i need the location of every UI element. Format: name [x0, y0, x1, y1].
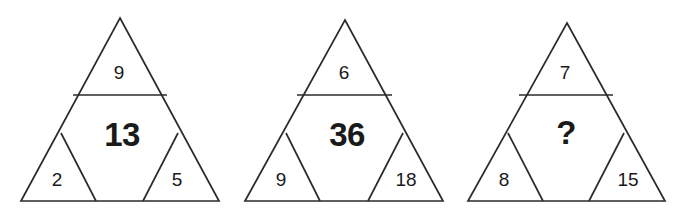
triangle-3-bottom-left-value: 8 [499, 169, 510, 190]
triangle-1-right-divider [143, 133, 178, 201]
triangle-3-bottom-right-value: 15 [617, 169, 638, 190]
triangle-2-bottom-left-value: 9 [276, 169, 287, 190]
triangle-1-bottom-left-value: 2 [52, 169, 63, 190]
triangles-figure: 9 13 2 5 6 36 9 18 7 ? 8 15 [0, 0, 697, 215]
triangle-2-left-divider [286, 133, 320, 201]
puzzle-canvas: 9 13 2 5 6 36 9 18 7 ? 8 15 [0, 0, 697, 215]
triangle-1-bottom-right-value: 5 [172, 169, 183, 190]
triangle-1-center-value: 13 [104, 116, 140, 153]
triangle-2-group: 6 36 9 18 [245, 20, 443, 201]
triangle-3-left-divider [508, 133, 543, 201]
triangle-2-right-divider [368, 133, 403, 201]
triangle-3-right-divider [589, 133, 624, 201]
triangle-1-outline [21, 18, 219, 201]
triangle-2-bottom-right-value: 18 [395, 169, 416, 190]
triangle-3-group: 7 ? 8 15 [468, 23, 665, 201]
triangle-1-top-value: 9 [114, 62, 125, 83]
triangle-1-left-divider [61, 133, 96, 201]
triangle-1-group: 9 13 2 5 [21, 18, 219, 201]
triangle-3-top-value: 7 [560, 62, 571, 83]
triangle-2-center-value: 36 [329, 116, 365, 153]
triangle-3-center-value: ? [556, 114, 576, 151]
triangle-2-top-value: 6 [339, 62, 350, 83]
